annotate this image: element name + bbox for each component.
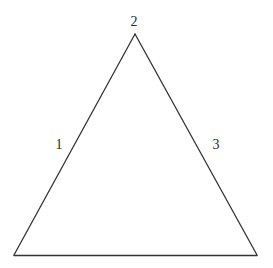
left-edge-label: 1: [56, 138, 63, 152]
right-edge-label: 3: [213, 138, 220, 152]
right-edge: [135, 34, 257, 255]
triangle-diagram: [0, 0, 273, 268]
left-edge: [14, 34, 135, 255]
apex-label: 2: [131, 15, 138, 29]
